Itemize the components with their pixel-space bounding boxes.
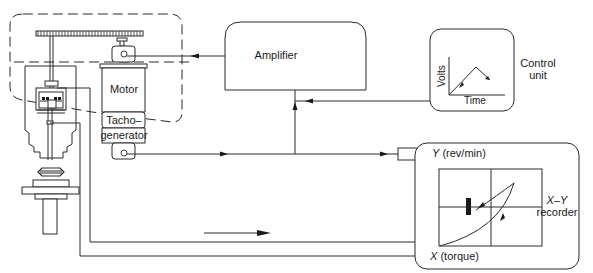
control-graph-ylabel: Volts: [436, 65, 447, 87]
control-unit-block: Volts Time: [430, 29, 514, 111]
motor-block: Motor: [100, 38, 147, 112]
control-unit-label-2: unit: [529, 69, 547, 81]
torque-sensor-assembly: [22, 36, 79, 234]
amp-to-motor-line: [127, 54, 225, 59]
xy-recorder-label-1: X–Y: [546, 194, 568, 206]
gear-icon: [36, 31, 143, 36]
tacho-label-2: generator: [100, 129, 147, 141]
control-to-amp-line: [293, 90, 431, 154]
control-unit-label-1: Control: [520, 57, 555, 69]
control-graph-xlabel: Time: [464, 95, 486, 106]
amplifier-label: Amplifier: [255, 49, 298, 61]
tacho-to-y-line: [127, 146, 430, 161]
x-input-label: X (torque): [429, 250, 479, 262]
motor-test-diagram: Motor Tacho– generator Amplifier Volts T…: [0, 0, 593, 273]
motor-label: Motor: [110, 83, 138, 95]
tachogenerator-block: Tacho– generator: [100, 112, 147, 159]
xy-recorder-label-2: recorder: [537, 206, 578, 218]
y-input-label: Y (rev/min): [432, 147, 486, 159]
amplifier-block: Amplifier: [225, 22, 366, 90]
tacho-label-1: Tacho–: [106, 114, 142, 126]
